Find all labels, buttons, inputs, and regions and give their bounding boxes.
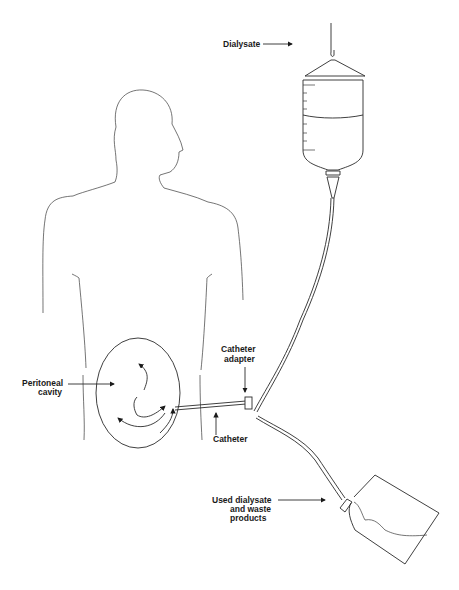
label-dialysate: Dialysate [223, 39, 261, 49]
catheter-adapter [245, 397, 252, 409]
label-catheter-adapter-1: Catheter [221, 344, 256, 354]
dialysate-bag [303, 23, 365, 198]
label-catheter: Catheter [213, 434, 248, 444]
label-used-3: products [230, 513, 267, 523]
label-peritoneal-2: cavity [38, 387, 62, 397]
drain-bag [340, 475, 439, 564]
tubing [254, 198, 345, 500]
label-catheter-adapter-2: adapter [224, 354, 255, 364]
dialysis-diagram: Dialysate Catheter adapter Peritoneal ca… [0, 0, 459, 590]
catheter [175, 401, 246, 410]
peritoneal-cavity [96, 338, 180, 448]
human-figure [43, 90, 243, 440]
